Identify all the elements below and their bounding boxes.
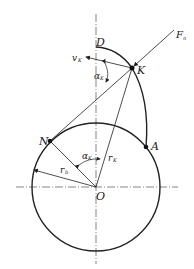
alpha-k-arc-top [105, 63, 108, 82]
velocity-arrow [86, 57, 132, 68]
radius-OK [96, 68, 132, 187]
line-of-action [50, 68, 132, 141]
label-rb-sub: b [65, 169, 68, 175]
label-velocity-sub: K [77, 57, 82, 63]
label-D: D [95, 36, 105, 49]
involute-curve [96, 47, 147, 147]
point-K [130, 66, 135, 71]
involute-diagram: D K N A O F n v K α K α K r K r b [0, 0, 194, 269]
label-K: K [136, 64, 146, 77]
radius-ON [50, 141, 96, 187]
label-N: N [38, 135, 49, 148]
label-force-sub: n [183, 35, 186, 41]
label-A: A [150, 140, 159, 153]
point-A [144, 145, 149, 150]
force-line [134, 30, 174, 66]
label-alpha-top-sub: K [99, 75, 104, 81]
label-rk-sub: K [112, 157, 117, 163]
label-velocity: v [72, 53, 77, 63]
label-alpha-center-sub: K [87, 155, 92, 161]
label-O: O [96, 190, 105, 203]
